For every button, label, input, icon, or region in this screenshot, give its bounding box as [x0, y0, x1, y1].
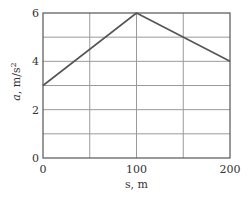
y-axis-label: a, m/s2: [9, 62, 24, 100]
acceleration-vs-position-chart: 0246 0100200 s, m a, m/s2: [0, 0, 252, 197]
y-tick-label: 2: [32, 104, 39, 117]
y-axis-label-exponent: 2: [9, 62, 18, 67]
x-tick-labels: 0100200: [40, 163, 241, 176]
x-tick-label: 200: [220, 163, 241, 176]
x-axis-label: s, m: [125, 178, 149, 191]
y-tick-label: 0: [32, 152, 39, 165]
x-tick-label: 100: [126, 163, 147, 176]
y-axis-label-units: , m/s: [10, 67, 23, 94]
grid-lines: [43, 13, 230, 158]
y-tick-label: 4: [32, 55, 39, 68]
y-tick-labels: 0246: [32, 7, 39, 165]
y-tick-label: 6: [32, 7, 39, 20]
x-tick-label: 0: [40, 163, 47, 176]
